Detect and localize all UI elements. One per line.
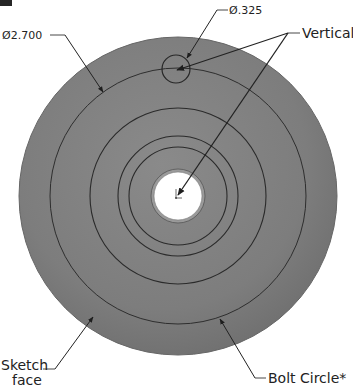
sketch-face-label-line2: face bbox=[12, 372, 42, 387]
hole-diameter-label: Ø.325 bbox=[229, 4, 262, 17]
outer-diameter-label: Ø2.700 bbox=[2, 29, 42, 42]
bolt-circle-label: Bolt Circle* bbox=[268, 370, 346, 386]
sketch-face-label-line1: Sketch bbox=[1, 357, 48, 373]
vertical-label: Vertical bbox=[302, 25, 353, 41]
center-hole[interactable] bbox=[154, 172, 202, 220]
sketch-drawing: Ø2.700 Ø.325 Vertical Sketch face Bolt C… bbox=[0, 0, 353, 387]
